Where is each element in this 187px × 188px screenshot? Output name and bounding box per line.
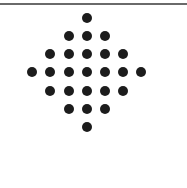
dot xyxy=(100,104,110,114)
dot xyxy=(64,67,74,77)
dot xyxy=(82,104,92,114)
dot xyxy=(82,86,92,96)
dot xyxy=(64,86,74,96)
dot xyxy=(100,67,110,77)
dot xyxy=(118,67,128,77)
dot xyxy=(82,31,92,41)
dot xyxy=(136,67,146,77)
dot xyxy=(64,49,74,59)
dot xyxy=(100,49,110,59)
dot xyxy=(64,104,74,114)
top-border-line xyxy=(0,3,187,5)
dot xyxy=(82,67,92,77)
dot xyxy=(100,86,110,96)
dot xyxy=(100,31,110,41)
dot xyxy=(118,86,128,96)
dot xyxy=(45,49,55,59)
dot xyxy=(82,13,92,23)
dot xyxy=(45,67,55,77)
dot xyxy=(64,31,74,41)
dot xyxy=(118,49,128,59)
dot xyxy=(45,86,55,96)
dot xyxy=(82,122,92,132)
dot xyxy=(27,67,37,77)
dot xyxy=(82,49,92,59)
